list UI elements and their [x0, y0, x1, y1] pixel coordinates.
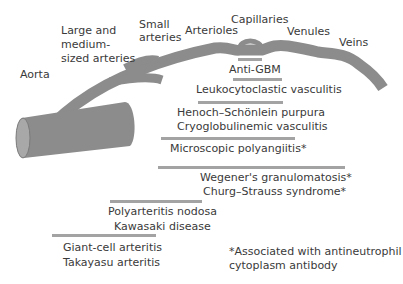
disease-leukocytoclastic: Leukocytoclastic vasculitis: [196, 83, 342, 96]
disease-cryo: Cryoglobulinemic vasculitis: [177, 120, 328, 133]
label-veins: Veins: [339, 36, 368, 49]
label-large-medium-1: Large and: [61, 24, 116, 37]
label-small-arteries-2: arteries: [139, 31, 181, 44]
label-aorta: Aorta: [20, 68, 50, 81]
range-bar-anti-gbm: [238, 58, 262, 61]
disease-hsp: Henoch–Schönlein purpura: [177, 106, 325, 119]
disease-churg-strauss: Churg–Strauss syndrome*: [203, 185, 346, 198]
range-bar-mpa: [161, 137, 295, 140]
label-large-medium-2: medium-: [61, 38, 110, 51]
range-bar-gca-takayasu: [52, 234, 156, 237]
disease-kawasaki: Kawasaki disease: [114, 220, 211, 233]
disease-mpa: Microscopic polyangiitis*: [170, 142, 306, 155]
disease-takayasu: Takayasu arteritis: [63, 256, 160, 269]
footnote-line-2: cytoplasm antibody: [229, 259, 338, 272]
disease-wegener: Wegener's granulomatosis*: [200, 171, 352, 184]
label-venules: Venules: [287, 25, 330, 38]
aorta-body: [22, 102, 135, 158]
disease-gca: Giant-cell arteritis: [63, 241, 162, 254]
label-large-medium-3: sized arteries: [61, 52, 135, 65]
label-small-arteries-1: Small: [139, 18, 170, 31]
range-bar-wegener-churg: [158, 166, 345, 169]
branch-small-artery: [110, 78, 162, 82]
label-capillaries: Capillaries: [231, 13, 288, 26]
range-bar-hsp-cryo: [198, 101, 283, 104]
aorta-opening: [16, 118, 30, 158]
disease-pan: Polyarteritis nodosa: [108, 205, 217, 218]
footnote-line-1: *Associated with antineutrophil: [229, 245, 402, 258]
range-bar-pan-kawasaki: [110, 200, 202, 203]
range-bar-leukocytoclastic: [233, 78, 282, 81]
disease-anti-gbm: Anti-GBM: [229, 63, 281, 76]
vasculitis-vessel-size-diagram: Aorta Large and medium- sized arteries S…: [0, 0, 403, 284]
